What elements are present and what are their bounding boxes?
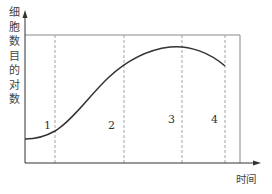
x-axis-label: 时间 <box>236 171 256 186</box>
phase-label-3: 3 <box>168 113 175 126</box>
y-axis-arrow-icon <box>23 10 28 18</box>
phase-label-2: 2 <box>108 119 115 132</box>
y-axis-label: 细胞数目的对数 <box>7 6 21 108</box>
x-axis-arrow-icon <box>253 161 261 166</box>
growth-curve-diagram <box>0 0 272 194</box>
phase-label-4: 4 <box>211 113 218 126</box>
phase-label-1: 1 <box>44 119 51 132</box>
